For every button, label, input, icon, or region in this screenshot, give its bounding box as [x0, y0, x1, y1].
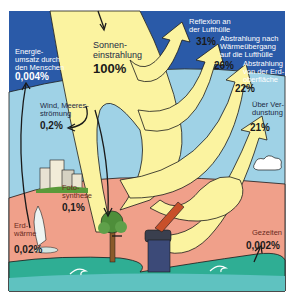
atmosphere-radiation-label: Abstrahlung nach Wärmeübergang auf die L… — [220, 35, 278, 59]
evaporation-value: 21% — [250, 122, 270, 133]
photosynthesis-value: 0,1% — [62, 202, 85, 213]
reflection-value: 31% — [196, 36, 216, 47]
geothermal-value: 0,02% — [14, 244, 42, 255]
wind-current-value: 0,2% — [40, 120, 63, 131]
incoming-value: 100% — [93, 62, 126, 76]
reflection-label: Reflexion an der Lufthülle — [189, 18, 231, 34]
tides-value: 0,002% — [246, 240, 280, 251]
human-energy-label: Energie- umsatz durch den Menschen — [15, 48, 64, 72]
tides-label: Gezeiten — [252, 229, 282, 237]
incoming-label: Sonnen- einstrahlung — [93, 40, 142, 60]
ocean-shallow — [9, 273, 285, 291]
surface-radiation-label: Abstrahlung von der Erd- oberfläche — [243, 60, 284, 84]
surface-radiation-value: 22% — [235, 83, 255, 94]
evaporation-label: Über Ver- dunstung — [252, 101, 284, 117]
human-energy-value: 0,004% — [15, 71, 49, 82]
photosynthesis-label: Foto- synthese — [62, 184, 92, 200]
wind-current-label: Wind, Meeres- strömung — [40, 102, 89, 118]
geothermal-label: Erd- wärme — [14, 222, 37, 238]
atmosphere-radiation-value: 26% — [214, 60, 234, 71]
